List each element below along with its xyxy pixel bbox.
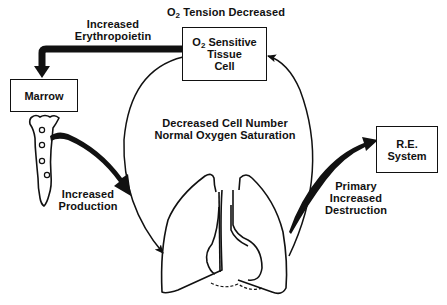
sensor-line-3: Cell [214,60,234,72]
erythropoietin-label: Increased Erythropoietin [68,18,158,42]
re-line-2: System [387,150,426,162]
center-label: Decreased Cell Number Normal Oxygen Satu… [145,117,305,141]
re-line-1: R.E. [396,138,417,150]
o2-sensitive-tissue-cell-box: O2 Sensitive Tissue Cell [182,27,267,81]
circulation-left-arrow [124,57,183,253]
marrow-box: Marrow [10,79,78,112]
circulation-right-arrow [268,56,313,256]
center-line-2: Normal Oxygen Saturation [145,129,305,141]
production-line-1: Increased [56,188,120,200]
bone-icon [30,116,59,207]
center-line-1: Decreased Cell Number [145,117,305,129]
production-label: Increased Production [56,188,120,212]
sensor-line-1: O2 Sensitive [192,36,256,48]
epo-line-1: Increased [68,18,158,30]
destruction-line-1: Primary [324,180,388,192]
production-arrow [50,132,131,196]
lungs-icon [162,174,287,293]
destruction-line-2: Increased [324,192,388,204]
production-line-2: Production [56,200,120,212]
title-text: Tension Decreased [180,6,285,18]
destruction-label: Primary Increased Destruction [324,180,388,216]
o2-symbol: O [167,6,176,18]
sensor-line-2: Tissue [207,48,242,60]
title-o2-tension: O2 Tension Decreased [162,6,290,18]
marrow-label: Marrow [24,90,63,102]
epo-line-2: Erythropoietin [68,30,158,42]
re-system-box: R.E. System [376,126,438,173]
destruction-line-3: Destruction [324,204,388,216]
erythropoietin-arrow [34,49,183,78]
